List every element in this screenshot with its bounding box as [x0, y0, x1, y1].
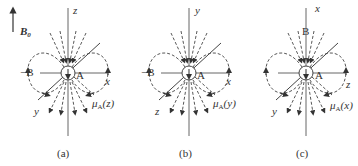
panel-a-center-label: A: [76, 70, 84, 81]
panel-c-moment-label: μA(x): [330, 100, 353, 113]
moment-arg: (z): [103, 97, 115, 109]
b0-label: B0: [20, 26, 31, 39]
panel-a-caption: (a): [57, 148, 69, 159]
panel-c-center-label: A: [315, 70, 323, 81]
panel-c-axis-top: x: [315, 3, 320, 14]
panel-c-axis-right: z: [346, 79, 350, 90]
panel-b-axis-right: x: [226, 76, 231, 87]
panel-c-caption: (c): [296, 148, 308, 159]
panel-b-axis-diag: z: [155, 106, 159, 117]
panel-b-caption: (b): [179, 148, 192, 159]
panel-a-axis-diag: y: [34, 106, 39, 117]
moment-arg: (y): [224, 97, 236, 109]
panel-b-axis-top: y: [195, 5, 200, 16]
panel-c-axis-diag: y: [272, 106, 277, 117]
panel-a-moment-label: μA(z): [92, 98, 114, 111]
panel-b-moment-label: μA(y): [213, 98, 236, 111]
panel-b-left-label: −B: [141, 67, 155, 78]
panel-b-center-label: A: [197, 70, 205, 81]
panel-b-drawing: [149, 8, 229, 136]
panel-a-axis-top: z: [73, 5, 77, 16]
moment-arg: (x): [341, 99, 353, 111]
panel-a-axis-right: x: [105, 76, 110, 87]
panel-a-drawing: [28, 8, 108, 136]
panel-a-left-label: −B: [20, 67, 34, 78]
panel-c-top-label: B: [302, 26, 309, 37]
b0-subscript: 0: [27, 31, 31, 39]
